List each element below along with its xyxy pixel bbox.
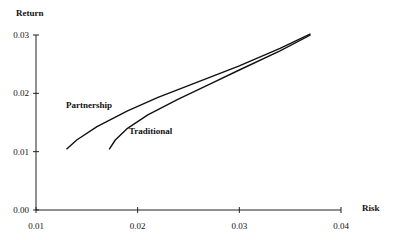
series-line-partnership (67, 34, 311, 150)
y-axis-label: Return (16, 8, 44, 18)
x-tick-label: 0.04 (333, 221, 349, 231)
x-axis-label: Risk (362, 203, 380, 213)
risk-return-chart: 0.010.020.030.040.000.010.020.03ReturnRi… (0, 0, 393, 240)
y-tick-label: 0.02 (13, 88, 29, 98)
y-tick-label: 0.01 (13, 147, 29, 157)
x-tick-label: 0.03 (231, 221, 247, 231)
x-tick-label: 0.01 (28, 221, 44, 231)
y-tick-label: 0.03 (13, 30, 29, 40)
partnership-label: Partnership (66, 100, 112, 110)
x-tick-label: 0.02 (130, 221, 146, 231)
y-tick-label: 0.00 (13, 205, 29, 215)
traditional-label: Traditional (129, 126, 173, 136)
